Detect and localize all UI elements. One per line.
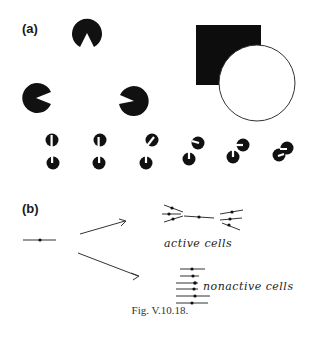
pacman-pair	[140, 134, 159, 170]
active-cells-label: active cells	[164, 237, 232, 250]
pacman-pair	[46, 134, 60, 170]
pacman-pair	[183, 137, 205, 166]
figure-caption: Fig. V.10.18.	[132, 304, 189, 316]
white-circle	[219, 45, 295, 121]
nonactive-cells-label: nonactive cells	[203, 280, 294, 293]
single-cell	[23, 238, 56, 241]
arrow-to-active	[80, 219, 126, 234]
pacman-pair	[227, 139, 250, 164]
small-pacmen-row	[46, 134, 294, 170]
panel-a-label: (a)	[22, 21, 38, 36]
occlusion-figure	[196, 25, 295, 121]
figure-canvas: (a)	[0, 0, 321, 339]
pacman-icon	[72, 19, 102, 47]
pacman-icon	[22, 83, 51, 113]
kanizsa-triangle	[22, 19, 148, 116]
pacman-pair	[273, 142, 294, 162]
arrow-to-nonactive	[78, 253, 139, 280]
pacman-pair	[93, 134, 107, 170]
active-cells-diagram	[162, 205, 243, 230]
pacman-icon	[119, 86, 149, 116]
panel-b-label: (b)	[22, 201, 39, 216]
